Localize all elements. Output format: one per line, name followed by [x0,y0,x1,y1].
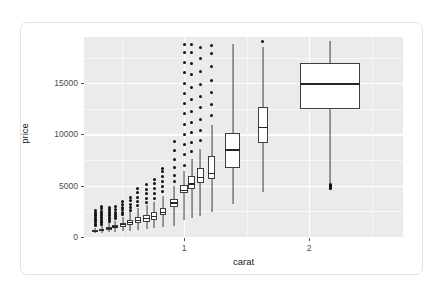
boxplot-outlier [199,139,202,142]
boxplot-outlier [173,149,176,152]
boxplot-outlier [129,209,132,212]
boxplot-outlier [183,61,186,64]
boxplot-box [300,63,360,110]
boxplot-outlier [153,192,156,195]
boxplot-box [197,168,204,182]
boxplot-outlier [183,133,186,136]
boxplot-outlier [183,102,186,105]
boxplot-outlier [199,83,202,86]
boxplot-median [300,83,360,85]
boxplot-outlier [183,153,186,156]
boxplot-outlier [161,180,164,183]
boxplot-outlier [129,196,132,199]
y-axis-label: price [19,104,30,164]
boxplot-outlier [94,209,97,212]
boxplot-median [180,190,188,191]
boxplot-median [112,226,118,227]
boxplot-median [170,202,178,203]
boxplot-median [92,231,98,232]
boxplot-outlier [183,123,186,126]
boxplot-outlier [183,71,186,74]
boxplot-outlier [173,166,176,169]
boxplot-outlier [153,197,156,200]
boxplot-outlier [145,188,148,191]
boxplot-median [208,173,216,174]
boxplot-median [120,224,126,225]
boxplot-group [135,37,141,237]
boxplot-group [106,37,112,237]
boxplot-outlier [199,57,202,60]
boxplot-outlier [183,164,186,167]
y-axis-tick-label: 10000 [34,130,78,139]
boxplot-outlier [261,40,264,43]
boxplot-group [180,37,188,237]
boxplot-outlier [121,213,124,216]
boxplot-outlier [136,196,139,199]
boxplot-outlier [145,201,148,204]
boxplot-group [92,37,98,237]
boxplot-outlier [173,180,176,183]
boxplot-whisker [232,44,233,203]
boxplot-group [151,37,157,237]
boxplot-group [225,37,240,237]
boxplot-outlier [199,46,202,49]
boxplot-outlier [199,70,202,73]
x-axis-label: carat [84,256,403,267]
boxplot-group [208,37,216,237]
boxplot-outlier [190,62,193,65]
boxplot-outlier [190,51,193,54]
boxplot-outlier [136,187,139,190]
boxplot-outlier [210,65,213,68]
boxplot-outlier [210,44,213,47]
boxplot-outlier [114,211,117,214]
boxplot-outlier [114,205,117,208]
y-axis-tick-label: 15000 [34,79,78,88]
boxplot-outlier [199,95,202,98]
boxplot-group [99,37,105,237]
y-axis-tick-mark [81,134,84,135]
boxplot-outlier [210,79,213,82]
boxplot-group [197,37,204,237]
boxplot-whisker [200,149,201,217]
boxplot-outlier [145,197,148,200]
boxplot-outlier [136,204,139,207]
boxplot-group [258,37,269,237]
boxplot-median [143,218,149,219]
boxplot-outlier [121,203,124,206]
boxplot-outlier [161,185,164,188]
boxplot-outlier [108,206,111,209]
boxplot-median [258,127,269,128]
boxplot-figure: 05000100001500012 price carat [0,0,442,292]
boxplot-box [258,107,269,143]
boxplot-outlier [161,175,164,178]
boxplot-outlier [190,98,193,101]
boxplot-outlier [190,141,193,144]
boxplot-outlier [153,182,156,185]
boxplot-outlier [161,190,164,193]
boxplot-outlier [210,103,213,106]
boxplot-outlier [183,143,186,146]
y-axis-tick-mark [81,237,84,238]
boxplot-outlier [129,203,132,206]
boxplot-outlier [210,52,213,55]
boxplot-group [300,37,360,237]
plot-panel [84,37,403,237]
boxplot-outlier [145,183,148,186]
boxplot-box [225,133,240,168]
boxplot-outlier [190,121,193,124]
boxplot-outlier [114,208,117,211]
boxplot-outlier [173,140,176,143]
y-axis-tick-label: 5000 [34,182,78,191]
boxplot-median [99,230,105,231]
boxplot-group [127,37,133,237]
boxplot-outlier [145,192,148,195]
boxplot-median [160,212,166,213]
x-axis-tick-mark [184,238,185,241]
boxplot-outlier [100,205,103,208]
boxplot-outlier [173,158,176,161]
boxplot-outlier [183,82,186,85]
figure-root: 05000100001500012 price carat [0,0,442,292]
x-axis-tick-label: 1 [169,244,199,253]
boxplot-outlier [190,110,193,113]
boxplot-outlier [161,170,164,173]
